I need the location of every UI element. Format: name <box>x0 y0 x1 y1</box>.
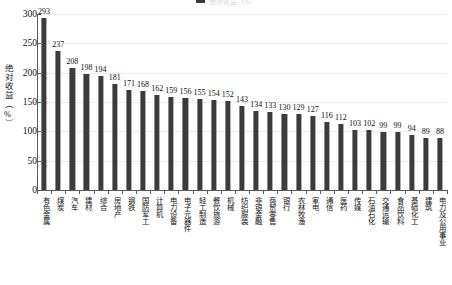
bar-value-label: 198 <box>80 64 92 72</box>
bar-slot: 181 <box>108 14 122 190</box>
x-axis-label: 传媒 <box>350 196 361 210</box>
bar-value-label: 168 <box>137 81 149 89</box>
bar <box>211 100 216 190</box>
x-axis-label: 国防军工 <box>138 196 149 224</box>
x-axis-tick-mark <box>122 191 123 194</box>
x-axis-label: 银行 <box>279 196 290 210</box>
x-axis-label: 交通运输 <box>378 196 389 224</box>
bar-slot: 159 <box>164 14 178 190</box>
bar-value-label: 133 <box>264 102 276 110</box>
x-axis-label: 医药 <box>335 196 346 210</box>
bar-value-label: 112 <box>335 114 347 122</box>
legend-label: 绝对收益（%） <box>209 0 257 5</box>
x-axis-tick-mark <box>94 191 95 194</box>
x-axis-label: 食品饮料 <box>392 196 403 224</box>
bar-value-label: 194 <box>95 66 107 74</box>
x-axis-label: 电力及公用事业 <box>434 196 445 245</box>
x-axis-label: 综合 <box>95 196 106 210</box>
bar <box>140 91 145 190</box>
x-axis-label: 商贸零售 <box>265 196 276 224</box>
bar <box>84 74 89 190</box>
x-axis-label: 石油石化 <box>364 196 375 224</box>
bar-slot: 156 <box>178 14 192 190</box>
y-axis-tick-mark <box>38 43 41 44</box>
bar <box>409 135 414 190</box>
x-axis-tick-mark <box>362 191 363 194</box>
bar-value-label: 134 <box>250 101 262 109</box>
bar-value-label: 159 <box>165 87 177 95</box>
x-axis-tick-mark <box>306 191 307 194</box>
y-axis-tick-label: 50 <box>0 155 37 166</box>
x-axis-label: 电力设备 <box>166 196 177 224</box>
bar <box>423 138 428 190</box>
bar <box>98 76 103 190</box>
bar-slot: 94 <box>405 14 419 190</box>
bar <box>367 130 372 190</box>
bar-chart: 绝对收益（%） 绝对收益（%） 293237208198194181171168… <box>0 0 452 285</box>
x-axis-label: 通信 <box>321 196 332 210</box>
bar-slot: 198 <box>79 14 93 190</box>
bar-value-label: 89 <box>422 128 430 136</box>
bar-value-label: 181 <box>109 74 121 82</box>
x-axis-tick-mark <box>419 191 420 194</box>
bar-value-label: 143 <box>236 96 248 104</box>
bar-value-label: 99 <box>379 122 387 130</box>
bar <box>282 114 287 190</box>
x-axis-tick-mark <box>291 191 292 194</box>
bar-slot: 102 <box>362 14 376 190</box>
x-axis-tick-mark <box>178 191 179 194</box>
x-axis-tick-mark <box>390 191 391 194</box>
x-axis-tick-mark <box>65 191 66 194</box>
y-axis-tick-mark <box>38 73 41 74</box>
x-axis-tick-mark <box>433 191 434 194</box>
x-axis-tick-mark <box>193 191 194 194</box>
bar-value-label: 155 <box>194 89 206 97</box>
x-axis-label: 机械 <box>222 196 233 210</box>
bar-value-label: 154 <box>208 90 220 98</box>
x-axis-tick-mark <box>249 191 250 194</box>
x-axis-tick-mark <box>277 191 278 194</box>
bar-slot: 143 <box>235 14 249 190</box>
y-axis-tick-label: 300 <box>0 9 37 20</box>
bar-value-label: 99 <box>394 122 402 130</box>
x-axis-tick-mark <box>320 191 321 194</box>
bar-slot: 134 <box>249 14 263 190</box>
bar-value-label: 152 <box>222 91 234 99</box>
x-axis-line <box>37 190 448 191</box>
bar-slot: 168 <box>136 14 150 190</box>
bar-value-label: 116 <box>321 112 333 120</box>
x-axis-tick-mark <box>207 191 208 194</box>
y-axis-tick-label: 100 <box>0 126 37 137</box>
x-axis-label: 家电 <box>307 196 318 210</box>
x-axis-tick-mark <box>221 191 222 194</box>
bar-slot: 112 <box>334 14 348 190</box>
x-axis-tick-mark <box>263 191 264 194</box>
bar-slot: 208 <box>65 14 79 190</box>
bar-series: 2932372081981941811711681621591561551541… <box>37 14 447 190</box>
bar-value-label: 156 <box>179 88 191 96</box>
bar <box>225 101 230 190</box>
bar-slot: 129 <box>291 14 305 190</box>
bar-slot: 130 <box>277 14 291 190</box>
bar-value-label: 237 <box>52 41 64 49</box>
y-axis-tick-mark <box>38 161 41 162</box>
bar-slot: 99 <box>376 14 390 190</box>
plot-area: 2932372081981941811711681621591561551541… <box>37 14 447 190</box>
y-axis-tick-label: 200 <box>0 67 37 78</box>
x-axis-label: 非银金融 <box>251 196 262 224</box>
x-axis-tick-mark <box>79 191 80 194</box>
bar <box>197 99 202 190</box>
y-axis-tick-label: 0 <box>0 185 37 196</box>
x-axis-label: 建筑 <box>420 196 431 210</box>
bar-value-label: 102 <box>363 120 375 128</box>
y-axis-tick-label: 250 <box>0 38 37 49</box>
x-axis-tick-mark <box>447 191 448 194</box>
x-axis-tick-mark <box>235 191 236 194</box>
bar-slot: 162 <box>150 14 164 190</box>
x-axis-label: 钢铁 <box>123 196 134 210</box>
bar-slot: 103 <box>348 14 362 190</box>
x-axis-tick-mark <box>334 191 335 194</box>
bar <box>169 97 174 190</box>
bar-value-label: 88 <box>436 128 444 136</box>
x-axis-tick-mark <box>348 191 349 194</box>
